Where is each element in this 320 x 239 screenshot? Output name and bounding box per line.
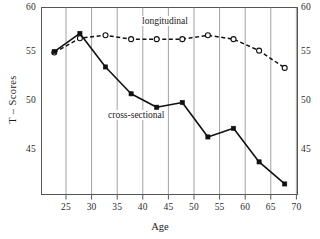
x-tick-label-25: 25 <box>54 202 78 212</box>
x-axis-ticks <box>66 195 296 200</box>
x-axis-title: Age <box>0 221 320 232</box>
data-point-longitudinal-50 <box>180 37 185 42</box>
data-point-longitudinal-40 <box>129 37 134 42</box>
data-point-cross-sectional-50 <box>180 100 184 104</box>
data-point-longitudinal-60 <box>231 37 236 42</box>
x-tick-label-50: 50 <box>182 202 206 212</box>
chart-figure: 60 55 50 45 60 55 50 45 25 30 35 40 45 5… <box>0 0 320 239</box>
x-tick-label-45: 45 <box>156 202 180 212</box>
data-point-cross-sectional-45 <box>155 105 159 109</box>
y-tick-label-right-55: 55 <box>301 46 320 56</box>
data-point-cross-sectional-65 <box>257 160 261 164</box>
data-point-cross-sectional-60 <box>231 126 235 130</box>
data-point-cross-sectional-25 <box>52 50 56 54</box>
data-point-cross-sectional-35 <box>103 65 107 69</box>
y-tick-label-right-45: 45 <box>301 144 320 154</box>
x-tick-label-60: 60 <box>233 202 257 212</box>
x-tick-label-55: 55 <box>208 202 232 212</box>
data-point-cross-sectional-30 <box>78 31 82 35</box>
x-tick-label-40: 40 <box>131 202 155 212</box>
data-point-cross-sectional-40 <box>129 92 133 96</box>
x-tick-label-65: 65 <box>259 202 283 212</box>
y-axis-title: T – Scores <box>7 55 18 145</box>
y-tick-label-left-45: 45 <box>14 144 36 154</box>
y-tick-label-right-60: 60 <box>301 2 320 12</box>
data-point-cross-sectional-70 <box>283 182 287 186</box>
y-tick-label-left-60: 60 <box>14 2 36 12</box>
data-point-cross-sectional-55 <box>206 135 210 139</box>
data-point-longitudinal-45 <box>154 37 159 42</box>
data-point-longitudinal-70 <box>282 65 287 70</box>
x-tick-label-35: 35 <box>105 202 129 212</box>
series-label-cross-sectional: cross-sectional <box>106 110 166 120</box>
data-point-longitudinal-65 <box>257 48 262 53</box>
series-label-longitudinal: longitudinal <box>140 16 190 26</box>
data-point-longitudinal-35 <box>103 33 108 38</box>
x-tick-label-70: 70 <box>284 202 308 212</box>
data-point-longitudinal-55 <box>205 33 210 38</box>
y-tick-label-right-50: 50 <box>301 95 320 105</box>
x-tick-label-30: 30 <box>80 202 104 212</box>
